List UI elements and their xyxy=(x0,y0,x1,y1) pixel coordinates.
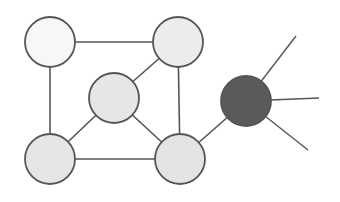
network-graph-diagram xyxy=(0,0,340,202)
node-top-right xyxy=(153,17,203,67)
node-hub xyxy=(221,76,271,126)
node-top-left xyxy=(25,17,75,67)
node-middle xyxy=(89,73,139,123)
node-bottom-left xyxy=(25,134,75,184)
node-bottom-right xyxy=(155,134,205,184)
